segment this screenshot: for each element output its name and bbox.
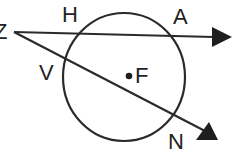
label-h: H xyxy=(62,4,78,26)
geometry-figure xyxy=(0,0,234,158)
circle-f xyxy=(63,13,185,141)
label-v: V xyxy=(39,62,54,84)
diagram-canvas: Z H A V F N xyxy=(0,0,234,158)
label-a: A xyxy=(173,6,188,28)
arrowhead-a-icon xyxy=(212,27,232,47)
ray-za xyxy=(14,32,214,37)
label-z: Z xyxy=(0,21,7,43)
center-point-f xyxy=(126,73,133,80)
arrowhead-n-icon xyxy=(196,122,218,140)
label-n: N xyxy=(168,131,184,153)
label-f: F xyxy=(135,65,148,87)
